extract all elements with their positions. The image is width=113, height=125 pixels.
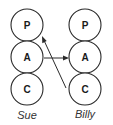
billy-child-state: C <box>69 73 101 105</box>
ego-state-diagram: P A C Sue P A C Billy <box>0 0 113 125</box>
arrow-sue-adult-to-billy-adult <box>44 56 69 61</box>
sue-adult-state: A <box>11 41 43 73</box>
billy-adult-label: A <box>81 52 88 63</box>
billy-adult-state: A <box>69 41 101 73</box>
billy-name-label: Billy <box>75 108 97 120</box>
billy-parent-label: P <box>82 20 89 31</box>
billy-child-label: C <box>81 84 88 95</box>
billy-parent-state: P <box>69 9 101 41</box>
sue-child-label: C <box>23 84 30 95</box>
sue-child-state: C <box>11 73 43 105</box>
billy-ego-states: P A C Billy <box>69 9 101 120</box>
sue-parent-state: P <box>11 9 43 41</box>
arrowhead-icon <box>63 56 69 61</box>
arrow-billy-child-to-sue-parent <box>42 36 66 88</box>
sue-adult-label: A <box>23 52 30 63</box>
sue-parent-label: P <box>24 20 31 31</box>
arrow-line <box>45 42 67 89</box>
sue-ego-states: P A C Sue <box>11 9 43 121</box>
arrowhead-icon <box>42 36 47 43</box>
sue-name-label: Sue <box>17 109 37 121</box>
